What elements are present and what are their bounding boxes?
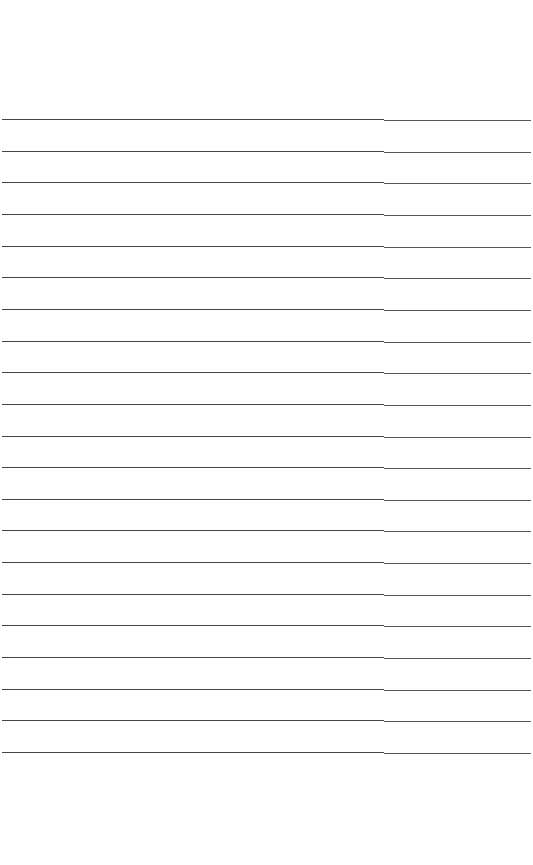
ruled-line-left-segment <box>2 277 384 278</box>
ruled-line-right-segment <box>384 120 531 121</box>
ruled-line-right-segment <box>384 437 531 438</box>
ruled-line-right-segment <box>384 531 531 532</box>
ruled-line-right-segment <box>384 278 531 279</box>
ruled-line-right-segment <box>384 721 531 722</box>
ruled-line-right-segment <box>384 468 531 469</box>
ruled-line-right-segment <box>384 626 531 627</box>
ruled-line-left-segment <box>2 594 384 595</box>
ruled-line-right-segment <box>384 342 531 343</box>
ruled-line-right-segment <box>384 405 531 406</box>
ruled-line-left-segment <box>2 467 384 468</box>
ruled-line-right-segment <box>384 500 531 501</box>
ruled-line-left-segment <box>2 309 384 310</box>
ruled-line-left-segment <box>2 562 384 563</box>
ruled-line-left-segment <box>2 341 384 342</box>
ruled-line-right-segment <box>384 247 531 248</box>
ruled-line-left-segment <box>2 151 384 152</box>
ruled-line-left-segment <box>2 720 384 721</box>
ruled-line-left-segment <box>2 182 384 183</box>
ruled-line-right-segment <box>384 373 531 374</box>
ruled-line-left-segment <box>2 404 384 405</box>
ruled-line-left-segment <box>2 436 384 437</box>
ruled-line-left-segment <box>2 689 384 690</box>
ruled-line-left-segment <box>2 372 384 373</box>
ruled-line-right-segment <box>384 563 531 564</box>
ruled-line-left-segment <box>2 752 384 753</box>
ruled-line-right-segment <box>384 753 531 754</box>
ruled-line-right-segment <box>384 658 531 659</box>
ruled-line-right-segment <box>384 152 531 153</box>
ruled-line-left-segment <box>2 530 384 531</box>
ruled-line-left-segment <box>2 657 384 658</box>
lined-paper-sheet <box>0 0 533 865</box>
ruled-line-right-segment <box>384 690 531 691</box>
ruled-line-right-segment <box>384 310 531 311</box>
ruled-line-left-segment <box>2 214 384 215</box>
ruled-line-right-segment <box>384 183 531 184</box>
ruled-line-right-segment <box>384 215 531 216</box>
ruled-line-left-segment <box>2 625 384 626</box>
ruled-line-left-segment <box>2 119 384 120</box>
ruled-line-right-segment <box>384 595 531 596</box>
ruled-line-left-segment <box>2 499 384 500</box>
ruled-line-left-segment <box>2 246 384 247</box>
